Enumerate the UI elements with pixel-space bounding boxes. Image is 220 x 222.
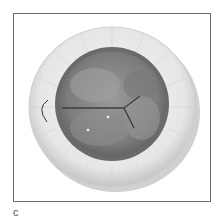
panel-label: c (13, 206, 19, 218)
valve-photo (0, 0, 220, 222)
